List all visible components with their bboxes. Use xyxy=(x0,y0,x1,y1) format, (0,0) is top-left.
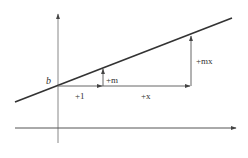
intercept-label: b xyxy=(46,75,51,86)
run-label: +x xyxy=(141,91,151,101)
unit-rise-label: +m xyxy=(106,75,118,85)
unit-run-label: +1 xyxy=(75,91,85,101)
rise-label: +mx xyxy=(196,56,213,66)
slope-intercept-diagram: b +1 +m +x +mx xyxy=(0,0,248,158)
